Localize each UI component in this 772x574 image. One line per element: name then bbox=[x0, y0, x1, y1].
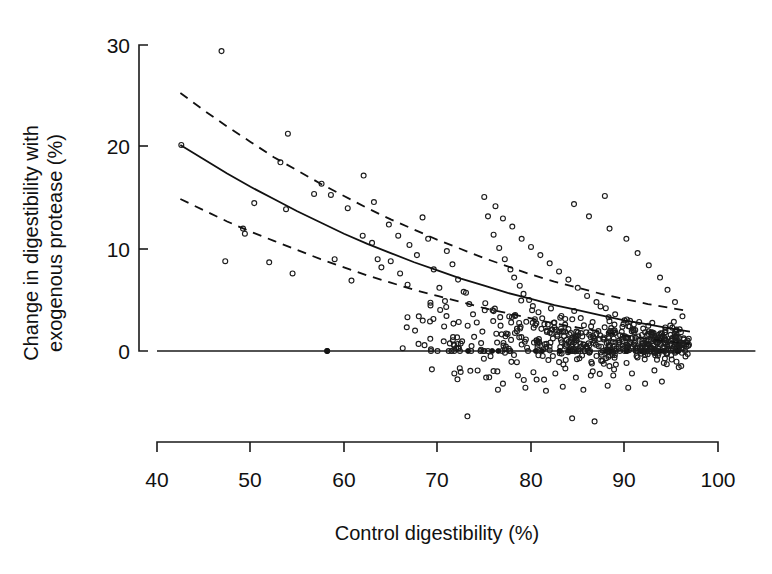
data-point bbox=[612, 367, 617, 372]
data-point bbox=[396, 233, 401, 238]
data-point bbox=[575, 285, 580, 290]
data-point bbox=[405, 315, 410, 320]
data-point bbox=[602, 325, 607, 330]
data-point bbox=[588, 373, 593, 378]
x-tick-label-100: 100 bbox=[700, 468, 735, 491]
data-point bbox=[613, 362, 618, 367]
data-point bbox=[386, 222, 391, 227]
data-point bbox=[603, 306, 608, 311]
data-point bbox=[515, 373, 520, 378]
data-point bbox=[465, 323, 470, 328]
data-point bbox=[414, 253, 419, 258]
data-point bbox=[630, 371, 635, 376]
data-point bbox=[398, 271, 403, 276]
data-point bbox=[375, 257, 380, 262]
data-point bbox=[345, 206, 350, 211]
data-point bbox=[456, 320, 461, 325]
data-point bbox=[429, 367, 434, 372]
data-point bbox=[290, 271, 295, 276]
data-point bbox=[587, 214, 592, 219]
data-point bbox=[544, 388, 549, 393]
data-point bbox=[486, 214, 491, 219]
data-point bbox=[501, 381, 506, 386]
data-point bbox=[312, 191, 317, 196]
data-point bbox=[451, 321, 456, 326]
data-point bbox=[400, 346, 405, 351]
data-point bbox=[474, 320, 479, 325]
data-point bbox=[475, 368, 480, 373]
data-point bbox=[585, 293, 590, 298]
data-point bbox=[626, 385, 631, 390]
data-point bbox=[285, 131, 290, 136]
data-point-cloud bbox=[179, 49, 692, 424]
data-point bbox=[404, 325, 409, 330]
y-tick-label-30: 30 bbox=[107, 34, 130, 57]
data-point bbox=[498, 323, 503, 328]
data-point bbox=[519, 342, 524, 347]
data-point bbox=[549, 306, 554, 311]
data-point bbox=[441, 339, 446, 344]
data-point bbox=[501, 216, 506, 221]
data-point bbox=[546, 358, 551, 363]
data-point bbox=[479, 341, 484, 346]
data-point bbox=[521, 291, 526, 296]
data-point bbox=[646, 263, 651, 268]
data-point bbox=[510, 224, 515, 229]
plot-canvas: 30 20 10 0 40 50 60 70 80 90 100 Control… bbox=[0, 0, 772, 574]
x-tick-label-90: 90 bbox=[612, 468, 635, 491]
data-point bbox=[594, 300, 599, 305]
data-point bbox=[420, 318, 425, 323]
data-point bbox=[491, 319, 496, 324]
x-tick-label-50: 50 bbox=[238, 468, 261, 491]
data-point bbox=[413, 328, 418, 333]
data-point bbox=[267, 260, 272, 265]
data-point bbox=[471, 312, 476, 317]
data-point bbox=[517, 283, 522, 288]
data-point bbox=[284, 207, 289, 212]
data-point bbox=[349, 278, 354, 283]
data-point bbox=[420, 215, 425, 220]
data-point bbox=[450, 262, 455, 267]
data-point bbox=[422, 343, 427, 348]
data-point bbox=[581, 387, 586, 392]
data-point bbox=[498, 315, 503, 320]
data-point bbox=[624, 236, 629, 241]
y-axis-title-line2: exogenous protease (%) bbox=[44, 134, 66, 352]
y-axis-bracket bbox=[139, 45, 148, 351]
data-point bbox=[487, 375, 492, 380]
data-point bbox=[611, 373, 616, 378]
data-point bbox=[491, 232, 496, 237]
data-point bbox=[529, 245, 534, 250]
data-point bbox=[643, 381, 648, 386]
data-point bbox=[524, 319, 529, 324]
data-point bbox=[371, 200, 376, 205]
data-point bbox=[493, 204, 498, 209]
data-point bbox=[557, 269, 562, 274]
data-point bbox=[578, 316, 583, 321]
data-point bbox=[360, 233, 365, 238]
x-tick-label-40: 40 bbox=[145, 468, 168, 491]
data-point bbox=[428, 336, 433, 341]
data-point bbox=[468, 368, 473, 373]
data-point bbox=[563, 316, 568, 321]
data-point bbox=[594, 354, 599, 359]
data-point bbox=[547, 261, 552, 266]
data-point bbox=[509, 359, 514, 364]
data-point bbox=[361, 173, 366, 178]
data-point bbox=[570, 317, 575, 322]
scatter-plot-figure: 30 20 10 0 40 50 60 70 80 90 100 Control… bbox=[0, 0, 772, 574]
x-axis-title: Control digestibility (%) bbox=[335, 522, 540, 544]
data-point bbox=[480, 329, 485, 334]
data-point bbox=[332, 257, 337, 262]
data-point bbox=[519, 236, 524, 241]
data-point bbox=[597, 371, 602, 376]
data-point bbox=[566, 277, 571, 282]
data-point bbox=[542, 377, 547, 382]
data-point bbox=[407, 242, 412, 247]
data-point bbox=[607, 364, 612, 369]
data-point bbox=[482, 195, 487, 200]
data-point bbox=[598, 304, 603, 309]
data-point bbox=[465, 414, 470, 419]
data-point bbox=[572, 202, 577, 207]
data-point bbox=[602, 194, 607, 199]
